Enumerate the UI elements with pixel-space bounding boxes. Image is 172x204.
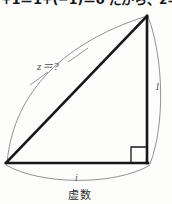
triangle-diagram	[0, 0, 172, 204]
diagram-page: +1＝1+(−1)＝0 だから、z＝0 でも z＝? 1 i 虚数	[0, 0, 172, 204]
leader-line-upper	[68, 48, 88, 62]
arc-base-measure	[6, 165, 150, 180]
hypotenuse-label: z＝?	[37, 57, 59, 73]
right-angle-icon	[131, 147, 146, 163]
triangle-hypotenuse-edge	[6, 16, 147, 163]
vertical-side-label: 1	[155, 81, 160, 92]
base-side-label: i	[75, 172, 78, 183]
base-caption-label: 虚数	[68, 186, 91, 202]
